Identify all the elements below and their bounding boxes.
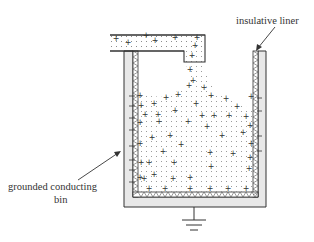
plus-charge: + <box>192 41 199 50</box>
plus-charge: + <box>193 99 200 108</box>
plus-charge: + <box>207 184 214 193</box>
plus-charge: + <box>243 184 250 193</box>
plus-charge: + <box>160 147 167 156</box>
plus-charge: + <box>171 158 178 167</box>
plus-charge: + <box>247 121 254 130</box>
plus-charge: + <box>162 184 169 193</box>
plus-charge: + <box>178 140 185 149</box>
plus-charge: + <box>187 173 194 182</box>
plus-charge: + <box>175 90 182 99</box>
plus-charge: + <box>247 153 254 162</box>
plus-charge: + <box>172 33 179 42</box>
plus-charge: + <box>246 164 253 173</box>
plus-charge: + <box>137 139 144 148</box>
plus-charge: + <box>199 111 206 120</box>
plus-charge: + <box>113 34 120 43</box>
plus-charge: + <box>223 94 230 103</box>
plus-charge: + <box>208 162 215 171</box>
plus-charge: + <box>137 91 144 100</box>
plus-charge: + <box>248 139 255 148</box>
plus-charge: + <box>138 101 145 110</box>
ground-icon <box>182 207 206 230</box>
plus-charge: + <box>152 36 159 45</box>
plus-charge: + <box>185 117 192 126</box>
liner-label: insulative liner <box>236 15 299 26</box>
plus-charge: + <box>225 184 232 193</box>
plus-charge: + <box>240 128 247 137</box>
plus-charge: + <box>230 149 237 158</box>
plus-charge: + <box>138 158 145 167</box>
plus-charge: + <box>248 92 255 101</box>
plus-charge: + <box>156 117 163 126</box>
plus-charge: + <box>170 174 177 183</box>
plus-charge: + <box>172 106 179 115</box>
bin-arrow <box>78 151 121 180</box>
bin-label-line2: bin <box>54 194 68 205</box>
plus-charge: + <box>208 91 215 100</box>
plus-charge: + <box>187 65 194 74</box>
plus-charge: + <box>125 38 132 47</box>
plus-charge: + <box>207 148 214 157</box>
plus-charge: + <box>143 31 150 40</box>
plus-charge: + <box>189 51 196 60</box>
plus-charge: + <box>186 81 193 90</box>
liner-arrow <box>256 27 275 51</box>
plus-charge: + <box>137 118 144 127</box>
plus-charge: + <box>187 184 194 193</box>
plus-charge: + <box>151 170 158 179</box>
plus-charge: + <box>234 102 241 111</box>
plus-charge: + <box>226 111 233 120</box>
plus-charge: + <box>137 173 144 182</box>
plus-charge: + <box>243 112 250 121</box>
plus-charge: + <box>163 93 170 102</box>
plus-charge: + <box>201 83 208 92</box>
plus-charge: + <box>219 131 226 140</box>
plus-charge: + <box>149 133 156 142</box>
plus-charge: + <box>151 99 158 108</box>
plus-charge: + <box>167 131 174 140</box>
plus-charge: + <box>146 184 153 193</box>
plus-charge: + <box>204 122 211 131</box>
diagram-canvas: ++++++++++++++++++++++++++++++++++++++++… <box>0 0 314 242</box>
plus-charge: + <box>146 158 153 167</box>
bin-label-line1: grounded conducting <box>8 181 98 192</box>
plus-charge: + <box>211 111 218 120</box>
